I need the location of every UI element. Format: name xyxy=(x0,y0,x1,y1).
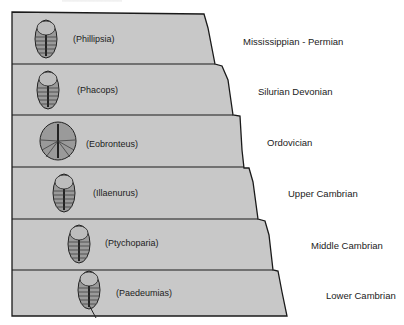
genus-label: (Illaenurus) xyxy=(93,188,138,198)
stratigraphic-column xyxy=(0,0,404,325)
period-label: Upper Cambrian xyxy=(288,188,358,199)
ptychoparia-fossil-icon xyxy=(68,225,90,263)
period-label: Middle Cambrian xyxy=(311,240,383,251)
period-label: Silurian Devonian xyxy=(258,86,332,97)
illaenurus-fossil-icon xyxy=(53,174,75,212)
phillipsia-fossil-icon xyxy=(35,20,57,58)
genus-label: (Eobronteus) xyxy=(86,139,138,149)
genus-label: (Paedeumias) xyxy=(116,288,172,298)
eobronteus-fossil-icon xyxy=(40,122,76,160)
period-label: Ordovician xyxy=(267,137,312,148)
genus-label: (Phillipsia) xyxy=(73,34,115,44)
period-label: Lower Cambrian xyxy=(326,290,396,301)
phacops-fossil-icon xyxy=(37,71,59,109)
period-label: Mississippian - Permian xyxy=(243,36,343,47)
genus-label: (Ptychoparia) xyxy=(105,238,159,248)
genus-label: (Phacops) xyxy=(77,85,118,95)
